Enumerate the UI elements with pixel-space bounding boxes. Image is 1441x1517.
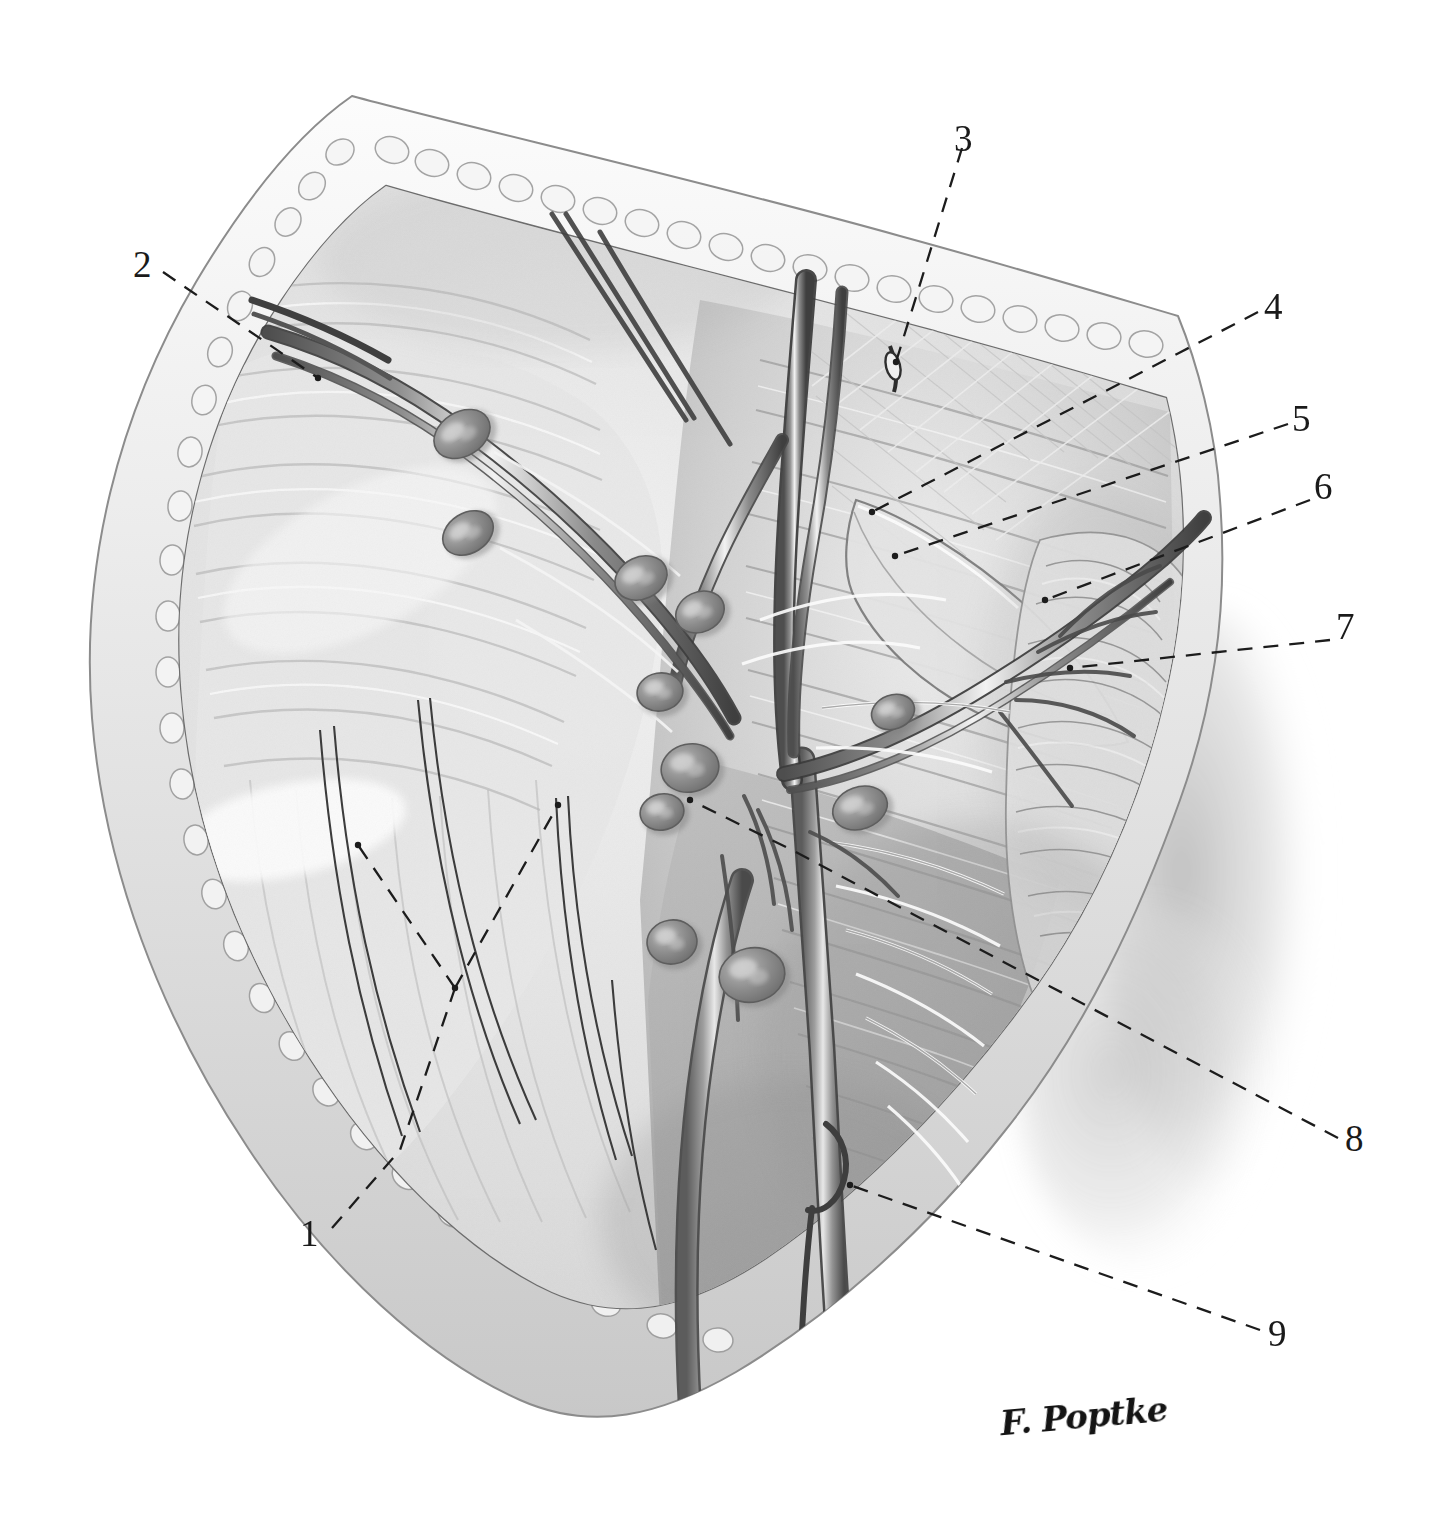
leader-endpoint-9 [847,1182,853,1188]
label-number-1: 1 [300,1215,319,1252]
label-number-9: 9 [1268,1315,1287,1352]
label-number-7: 7 [1336,608,1355,645]
leader-endpoint-7 [1067,665,1073,671]
label-number-2: 2 [133,246,152,283]
label-number-8: 8 [1345,1120,1364,1157]
illustration-canvas [0,0,1441,1517]
label-number-5: 5 [1292,400,1311,437]
leader-endpoint-1 [355,842,361,848]
leader-endpoint-3 [893,359,899,365]
leader-endpoint-8 [687,797,693,803]
leader-endpoint-2 [315,375,321,381]
leader-endpoint-1 [452,985,458,991]
leader-endpoint-5 [892,553,898,559]
label-number-6: 6 [1314,468,1333,505]
leader-endpoint-1 [555,802,561,808]
leader-endpoint-6 [1042,597,1048,603]
leader-endpoint-4 [869,509,875,515]
label-number-4: 4 [1264,288,1283,325]
label-number-3: 3 [954,120,973,157]
anatomical-figure: 123456789 F. Poptke [0,0,1441,1517]
